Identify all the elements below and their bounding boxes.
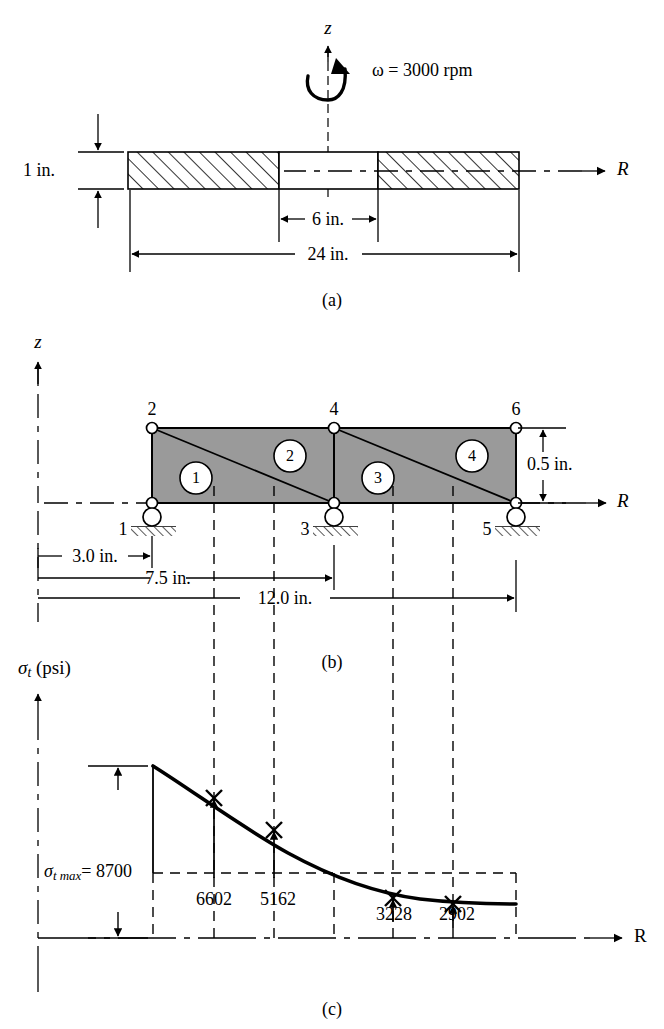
thickness-dimension-label: 1 in. xyxy=(23,161,55,179)
stress-value-label-1: 6602 xyxy=(196,890,232,908)
roller-support-icon-3 xyxy=(313,508,358,536)
node-label-6: 6 xyxy=(512,400,521,418)
node-label-5: 5 xyxy=(483,520,492,538)
node-marker-3 xyxy=(329,498,340,509)
stress-value-label-4: 2902 xyxy=(439,905,475,923)
node-label-4: 4 xyxy=(330,400,339,418)
stress-point-1 xyxy=(206,790,222,878)
omega-label: ω = 3000 rpm xyxy=(372,61,473,79)
node-label-3: 3 xyxy=(301,520,310,538)
stress-value-label-2: 5162 xyxy=(260,890,296,908)
roller-support-icon-1 xyxy=(131,508,176,536)
panel-b-z-axis-label: z xyxy=(34,332,41,351)
sigma-subscript: t xyxy=(27,665,31,680)
sigma-max-subscript: t max xyxy=(53,868,81,883)
sigma-max-dimension xyxy=(88,766,148,938)
node-marker-4 xyxy=(329,423,340,434)
caption-a: (a) xyxy=(322,291,342,309)
element-label-2: 2 xyxy=(286,448,294,464)
panel-c-R-axis-label: R xyxy=(634,926,647,945)
sigma-max-symbol: σ xyxy=(44,861,53,881)
height-dimension-label: 0.5 in. xyxy=(527,455,573,473)
element-label-1: 1 xyxy=(192,470,200,486)
outer-dimension-label: 24 in. xyxy=(307,245,348,263)
node-marker-1 xyxy=(147,498,158,509)
panel-b-graphics xyxy=(38,362,606,938)
inner-dimension-label: 6 in. xyxy=(312,210,344,228)
panel-b-R-axis-label: R xyxy=(617,491,629,510)
roller-support-icon-5 xyxy=(495,508,540,536)
disk-section-right xyxy=(378,152,519,189)
stress-value-label-3: 3228 xyxy=(376,905,412,923)
panel-a-z-axis-label: z xyxy=(324,18,331,37)
panel-c-y-axis-label: σt (psi) xyxy=(18,658,71,680)
stress-curve xyxy=(153,766,516,904)
node-label-1: 1 xyxy=(119,520,128,538)
element-label-4: 4 xyxy=(468,448,476,464)
rotation-arrow-icon xyxy=(307,58,350,100)
sigma-max-label: σt max= 8700 xyxy=(44,862,132,883)
figure-root: z ω = 3000 rpm R 1 in. 6 in. 24 in. (a) … xyxy=(0,0,664,1029)
panel-b-dimension-witnesses xyxy=(152,536,516,612)
node-marker-2 xyxy=(147,423,158,434)
psi-units: (psi) xyxy=(36,657,71,678)
node-label-2: 2 xyxy=(148,400,157,418)
dim-7-5-label: 7.5 in. xyxy=(145,569,191,587)
dim-3-label: 3.0 in. xyxy=(72,547,118,565)
panel-a-thickness-dimension xyxy=(78,114,124,228)
element-label-3: 3 xyxy=(374,470,382,486)
caption-b: (b) xyxy=(322,653,343,671)
sigma-max-equation: = 8700 xyxy=(81,861,132,881)
panel-a-graphics xyxy=(78,46,605,272)
sigma-symbol: σ xyxy=(18,657,27,678)
panel-c-graphics xyxy=(38,694,622,992)
panel-a-R-axis-label: R xyxy=(617,159,629,178)
disk-section-left xyxy=(128,152,279,189)
dim-12-label: 12.0 in. xyxy=(258,589,313,607)
caption-c: (c) xyxy=(322,1000,342,1018)
